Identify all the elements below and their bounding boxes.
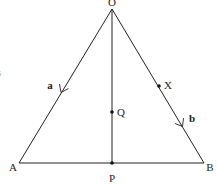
label-vector-b: b [189, 112, 195, 124]
clipped-text-fragment: s [0, 67, 1, 78]
point-X-dot [157, 84, 161, 88]
label-B: B [206, 161, 213, 173]
label-X: X [164, 79, 172, 91]
label-Q: Q [117, 106, 125, 118]
side-OA [19, 9, 112, 163]
label-O: O [108, 0, 116, 8]
label-A: A [9, 161, 17, 173]
point-Q-dot [110, 110, 114, 114]
label-P: P [109, 172, 115, 184]
triangle-diagram: s O A B P Q X a b [0, 0, 218, 185]
point-P-dot [110, 161, 114, 165]
label-vector-a: a [47, 79, 53, 91]
